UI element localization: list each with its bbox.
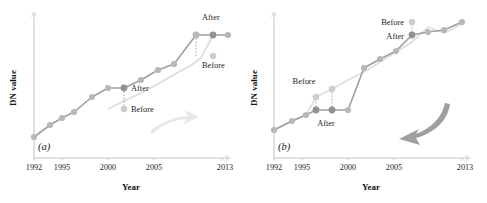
trend-arrow-a [150,110,199,134]
xtick-a-1995: 1995 [54,163,70,172]
xtick-b-2000: 2000 [340,163,356,172]
annotation-after-b-1: After [317,119,335,128]
annotation-before-a-1: Before [131,105,154,114]
corrected-series-line-b [274,22,462,130]
annotation-before-b-2: Before [381,18,404,27]
y-axis-title-b: DN value [249,70,259,106]
xtick-a-2000: 2000 [100,163,116,172]
chart-panel-a: After Before After Before (a) 1992 1995 … [0,0,243,203]
panel-label-a: (a) [38,141,51,153]
panel-a-svg: After Before After Before (a) 1992 1995 … [0,0,243,203]
x-axis-title-a: Year [122,182,140,192]
annotation-after-a-1: After [131,84,149,93]
xtick-b-1995: 1995 [294,163,310,172]
x-axis-title-b: Year [362,182,380,192]
xtick-a-2013: 2013 [217,163,233,172]
xtick-b-1992: 1992 [266,163,282,172]
corrected-markers-b [271,19,465,133]
chart-panel-b: Before After Before After (b) 1992 1995 … [244,0,487,203]
panel-label-b: (b) [278,141,291,153]
xtick-a-1992: 1992 [26,163,42,172]
annotation-before-b-1: Before [293,77,316,86]
xtick-a-2005: 2005 [146,163,162,172]
y-axis-title-a: DN value [8,70,18,106]
xtick-b-2005: 2005 [386,163,402,172]
annotation-after-b-2: After [386,32,404,41]
figure-container: After Before After Before (a) 1992 1995 … [0,0,487,203]
trend-arrow-b [399,103,450,145]
annotation-before-a-2: Before [202,61,225,70]
panel-b-svg: Before After Before After (b) 1992 1995 … [244,0,487,203]
annotation-after-a-2: After [202,13,220,22]
before-markers-b [313,19,416,101]
xtick-b-2013: 2013 [457,163,473,172]
